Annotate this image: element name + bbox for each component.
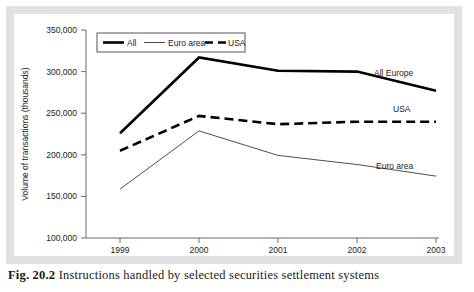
series-end-label-all-europe: All Europe	[374, 68, 413, 78]
x-tick-label: 2000	[190, 245, 209, 255]
y-axis-tick-labels: 100,000 150,000 200,000 250,000 300,000 …	[46, 25, 77, 243]
figure-caption: Fig. 20.2 Instructions handled by select…	[8, 268, 472, 284]
y-tick-label: 100,000	[46, 233, 77, 243]
y-tick-label: 300,000	[46, 67, 77, 77]
figure-caption-text: Instructions handled by selected securit…	[59, 268, 380, 282]
x-tick-label: 2001	[269, 245, 288, 255]
x-tick-label: 1999	[111, 245, 130, 255]
chart-legend[interactable]: All Euro area USA	[97, 33, 246, 52]
figure-container: 100,000 150,000 200,000 250,000 300,000 …	[0, 0, 474, 292]
legend-label-euro-area: Euro area	[168, 38, 206, 48]
y-axis-title: Volume of transactions (thousands)	[20, 67, 30, 200]
x-tick-label: 2002	[348, 245, 367, 255]
legend-label-usa: USA	[228, 38, 246, 48]
legend-label-all: All	[127, 38, 137, 48]
figure-caption-number: Fig. 20.2	[8, 268, 55, 282]
chart-frame: 100,000 150,000 200,000 250,000 300,000 …	[6, 6, 462, 264]
x-axis-ticks	[120, 238, 436, 243]
x-tick-label: 2003	[427, 245, 446, 255]
series-line-usa	[120, 116, 436, 151]
chart-plot-area: 100,000 150,000 200,000 250,000 300,000 …	[14, 14, 454, 256]
series-line-euro-area	[120, 131, 436, 189]
y-axis-ticks	[81, 30, 86, 238]
x-axis-tick-labels: 1999 2000 2001 2002 2003	[111, 245, 446, 255]
y-tick-label: 200,000	[46, 150, 77, 160]
y-tick-label: 150,000	[46, 191, 77, 201]
series-end-label-euro-area: Euro area	[376, 161, 414, 171]
series-end-label-usa: USA	[393, 104, 411, 114]
line-chart: 100,000 150,000 200,000 250,000 300,000 …	[14, 14, 454, 256]
y-tick-label: 250,000	[46, 108, 77, 118]
y-tick-label: 350,000	[46, 25, 77, 35]
